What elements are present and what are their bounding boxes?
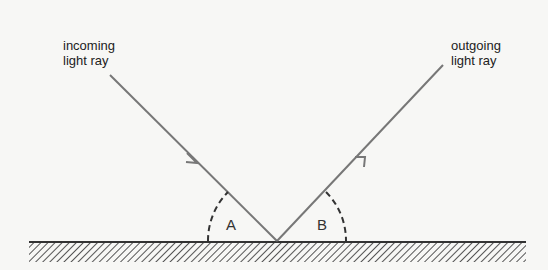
outgoing-ray	[277, 65, 443, 241]
angle-arc-a	[208, 192, 228, 241]
incoming-ray-label: incoming light ray	[63, 38, 115, 68]
angle-arc-b	[326, 192, 346, 241]
mirror-surface	[29, 242, 526, 262]
angle-label-a: A	[226, 216, 236, 233]
incoming-ray	[110, 75, 277, 241]
angle-label-b: B	[317, 216, 327, 233]
incoming-arrow-icon	[186, 153, 197, 163]
outgoing-ray-label: outgoing light ray	[451, 38, 501, 68]
outgoing-arrow-icon	[355, 157, 365, 167]
